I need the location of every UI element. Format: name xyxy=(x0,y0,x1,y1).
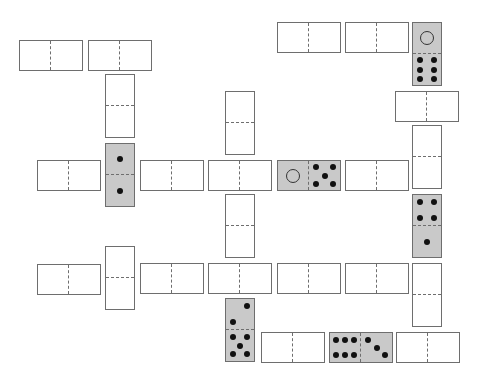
pip-icon xyxy=(237,343,243,349)
pip-icon xyxy=(333,337,339,343)
pip-icon xyxy=(424,239,430,245)
pip-icon xyxy=(431,215,437,221)
domino-half-a xyxy=(106,75,134,106)
pip-icon xyxy=(230,351,236,357)
domino-half-a xyxy=(38,265,69,294)
domino-half-b xyxy=(69,265,100,294)
domino-half-a xyxy=(278,23,309,52)
blank-circle-icon xyxy=(286,169,300,183)
domino-slot-empty[interactable] xyxy=(105,74,135,138)
domino-slot-empty[interactable] xyxy=(345,160,409,191)
pip-icon xyxy=(431,57,437,63)
pip-icon xyxy=(351,352,357,358)
domino-half-b xyxy=(428,333,459,362)
domino-half-b xyxy=(377,161,408,190)
domino-slot-empty[interactable] xyxy=(140,263,204,294)
domino-half-a xyxy=(226,299,254,330)
domino-half-a xyxy=(330,333,361,362)
domino-slot-empty[interactable] xyxy=(140,160,204,191)
domino-slot-empty[interactable] xyxy=(88,40,152,71)
domino-half-b xyxy=(413,157,441,188)
pip-icon xyxy=(330,181,336,187)
pip-icon xyxy=(417,67,423,73)
domino-slot-empty[interactable] xyxy=(412,263,442,327)
domino-half-b xyxy=(226,330,254,361)
domino-half-a xyxy=(413,195,441,226)
domino-slot-empty[interactable] xyxy=(345,263,409,294)
pip-icon xyxy=(342,337,348,343)
domino-slot-empty[interactable] xyxy=(225,194,255,258)
domino-half-a xyxy=(413,126,441,157)
blank-circle-icon xyxy=(420,31,434,45)
domino-slot-empty[interactable] xyxy=(105,246,135,310)
domino-half-b xyxy=(309,264,340,293)
domino-half-b xyxy=(377,264,408,293)
domino-tile-placed[interactable] xyxy=(225,298,255,362)
domino-slot-empty[interactable] xyxy=(225,91,255,155)
pip-icon xyxy=(244,303,250,309)
domino-tile-placed[interactable] xyxy=(412,22,442,86)
domino-slot-empty[interactable] xyxy=(37,264,101,295)
pip-icon xyxy=(244,334,250,340)
pip-icon xyxy=(417,215,423,221)
domino-half-a xyxy=(38,161,69,190)
pip-icon xyxy=(322,173,328,179)
domino-half-b xyxy=(172,161,203,190)
pip-icon xyxy=(374,345,380,351)
pip-icon xyxy=(417,57,423,63)
domino-half-a xyxy=(346,23,377,52)
pip-icon xyxy=(365,337,371,343)
domino-half-a xyxy=(346,264,377,293)
domino-slot-empty[interactable] xyxy=(37,160,101,191)
domino-slot-empty[interactable] xyxy=(208,160,272,191)
domino-half-b xyxy=(413,54,441,85)
domino-tile-placed[interactable] xyxy=(277,160,341,191)
domino-half-b xyxy=(69,161,100,190)
domino-tile-placed[interactable] xyxy=(105,143,135,207)
domino-half-b xyxy=(309,23,340,52)
domino-half-b xyxy=(106,278,134,309)
domino-slot-empty[interactable] xyxy=(412,125,442,189)
domino-half-b xyxy=(240,264,271,293)
pip-icon xyxy=(431,76,437,82)
pip-icon xyxy=(351,337,357,343)
domino-slot-empty[interactable] xyxy=(345,22,409,53)
domino-half-b xyxy=(226,123,254,154)
domino-slot-empty[interactable] xyxy=(208,263,272,294)
domino-half-b xyxy=(106,175,134,206)
domino-half-a xyxy=(209,161,240,190)
domino-tile-placed[interactable] xyxy=(329,332,393,363)
pip-icon xyxy=(313,164,319,170)
pip-icon xyxy=(333,352,339,358)
domino-slot-empty[interactable] xyxy=(19,40,83,71)
domino-half-a xyxy=(141,161,172,190)
domino-slot-empty[interactable] xyxy=(395,91,459,122)
domino-slot-empty[interactable] xyxy=(261,332,325,363)
domino-half-b xyxy=(120,41,151,70)
domino-half-a xyxy=(141,264,172,293)
domino-half-b xyxy=(226,226,254,257)
domino-half-a xyxy=(278,264,309,293)
domino-slot-empty[interactable] xyxy=(396,332,460,363)
pip-icon xyxy=(417,76,423,82)
domino-half-a xyxy=(20,41,51,70)
pip-icon xyxy=(431,67,437,73)
domino-half-a xyxy=(209,264,240,293)
pip-icon xyxy=(117,156,123,162)
domino-half-a xyxy=(413,23,441,54)
domino-half-a xyxy=(278,161,309,190)
pip-icon xyxy=(230,334,236,340)
domino-half-a xyxy=(397,333,428,362)
domino-half-a xyxy=(396,92,427,121)
pip-icon xyxy=(230,319,236,325)
pip-icon xyxy=(417,199,423,205)
domino-half-b xyxy=(172,264,203,293)
domino-half-b xyxy=(413,295,441,326)
domino-slot-empty[interactable] xyxy=(277,263,341,294)
domino-tile-placed[interactable] xyxy=(412,194,442,258)
domino-board xyxy=(0,0,484,380)
domino-half-a xyxy=(226,92,254,123)
domino-half-b xyxy=(51,41,82,70)
domino-slot-empty[interactable] xyxy=(277,22,341,53)
domino-half-a xyxy=(262,333,293,362)
